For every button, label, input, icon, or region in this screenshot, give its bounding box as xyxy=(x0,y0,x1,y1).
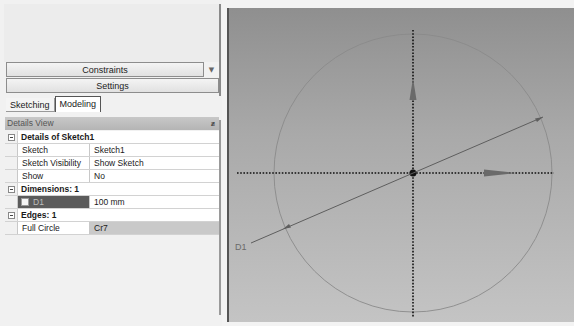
group-edges: Edges: 1 xyxy=(5,209,219,222)
dimension-value-field[interactable]: 100 mm xyxy=(90,196,219,208)
property-name: Show Constraints? xyxy=(17,170,90,182)
details-view-title: Details View xyxy=(7,118,54,128)
table-row[interactable]: Full Circle Cr7 xyxy=(5,222,219,235)
y-axis-arrow-icon xyxy=(410,78,417,100)
panel-splitter-lower[interactable] xyxy=(219,120,221,315)
diameter-dimension-line xyxy=(251,117,543,243)
dimension-name-cell[interactable]: D1 xyxy=(17,196,90,208)
collapse-icon[interactable] xyxy=(5,131,17,143)
sketch-canvas xyxy=(229,8,574,322)
collapse-icon[interactable] xyxy=(5,183,17,195)
collapse-icon[interactable] xyxy=(5,209,17,221)
table-row[interactable]: Sketch Visibility Show Sketch xyxy=(5,157,219,170)
chevron-down-icon[interactable]: ▼ xyxy=(204,62,219,77)
tab-modeling[interactable]: Modeling xyxy=(55,96,102,112)
x-axis-arrow-icon xyxy=(484,170,516,177)
details-table: Details of Sketch1 Sketch Sketch1 Sketch… xyxy=(5,131,219,235)
property-value: Cr7 xyxy=(90,222,219,234)
group-label: Dimensions: 1 xyxy=(17,183,219,195)
constraints-toolbox-button[interactable]: Constraints xyxy=(6,62,204,77)
table-row[interactable]: D1 100 mm xyxy=(5,196,219,209)
panel-splitter[interactable] xyxy=(219,4,221,96)
dimension-label-d1[interactable]: D1 xyxy=(235,242,247,252)
tab-sketching[interactable]: Sketching xyxy=(6,98,55,112)
group-details-of-sketch: Details of Sketch1 xyxy=(5,131,219,144)
constraints-label: Constraints xyxy=(82,65,128,75)
group-label: Details of Sketch1 xyxy=(17,131,219,143)
settings-label: Settings xyxy=(96,81,129,91)
details-view-header: Details View ᵶ xyxy=(5,117,219,130)
property-value[interactable]: Sketch1 xyxy=(90,144,219,156)
sketching-toolbox-area xyxy=(4,4,219,62)
graphics-viewport[interactable]: D1 xyxy=(227,8,574,322)
table-row[interactable]: Show Constraints? No xyxy=(5,170,219,183)
mode-tabs: Sketching Modeling xyxy=(6,96,101,112)
left-panel: Constraints ▼ Settings Sketching Modelin… xyxy=(0,0,222,326)
property-name: D1 xyxy=(33,196,44,208)
parameter-checkbox[interactable] xyxy=(21,198,29,206)
property-value[interactable]: Show Sketch xyxy=(90,157,219,169)
property-value[interactable]: No xyxy=(90,170,219,182)
group-label: Edges: 1 xyxy=(17,209,219,221)
property-name: Full Circle xyxy=(17,222,90,234)
pin-icon[interactable]: ᵶ xyxy=(211,117,215,130)
settings-toolbox-button[interactable]: Settings xyxy=(6,78,219,93)
property-name: Sketch Visibility xyxy=(17,157,90,169)
table-row[interactable]: Sketch Sketch1 xyxy=(5,144,219,157)
group-dimensions: Dimensions: 1 xyxy=(5,183,219,196)
property-name: Sketch xyxy=(17,144,90,156)
